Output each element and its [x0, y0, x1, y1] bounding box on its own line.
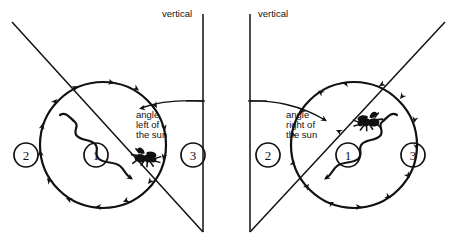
vertical-label-right: vertical — [258, 8, 288, 19]
svg-text:2: 2 — [23, 148, 30, 163]
right-panel: vertical angle right of the sun — [248, 8, 445, 232]
vertical-label-left: vertical — [162, 8, 192, 19]
svg-text:1: 1 — [345, 148, 352, 163]
left-panel: vertical angle left of the sun — [12, 8, 205, 232]
svg-text:3: 3 — [410, 148, 417, 163]
diagram-figure: vertical angle left of the sun — [0, 0, 457, 248]
marker-3-right: 3 — [401, 143, 425, 167]
svg-text:the sun: the sun — [136, 129, 167, 140]
sun-ray-line-right — [250, 22, 445, 232]
marker-2-right: 2 — [256, 143, 280, 167]
svg-text:2: 2 — [265, 148, 272, 163]
svg-text:1: 1 — [93, 148, 100, 163]
svg-text:3: 3 — [190, 148, 197, 163]
waggle-dance-svg: vertical angle left of the sun — [0, 0, 457, 248]
marker-3-left: 3 — [181, 143, 205, 167]
marker-2-left: 2 — [14, 143, 38, 167]
